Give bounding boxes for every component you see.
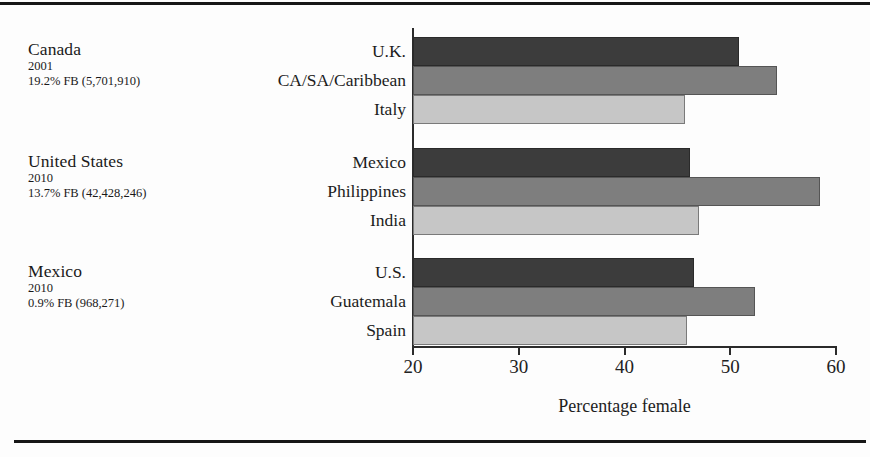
bar-category-label: Mexico bbox=[156, 152, 406, 172]
bar bbox=[413, 37, 739, 66]
bar bbox=[413, 287, 755, 316]
x-tick-mark bbox=[835, 346, 837, 355]
x-tick-mark bbox=[412, 346, 414, 355]
bar bbox=[413, 148, 690, 177]
bar bbox=[413, 95, 685, 124]
bar bbox=[413, 66, 777, 95]
bottom-rule bbox=[14, 440, 866, 443]
plot-area: 2030405060 bbox=[412, 28, 837, 348]
x-tick-label: 30 bbox=[497, 356, 541, 378]
bar-category-label: CA/SA/Caribbean bbox=[156, 70, 406, 90]
bar bbox=[413, 177, 820, 206]
figure-panel: Canada200119.2% FB (5,701,910)United Sta… bbox=[0, 0, 870, 457]
bar-category-label: U.S. bbox=[156, 262, 406, 282]
x-tick-mark bbox=[518, 346, 520, 355]
bar bbox=[413, 316, 687, 345]
bar-category-label: Philippines bbox=[156, 181, 406, 201]
x-tick-label: 40 bbox=[603, 356, 647, 378]
top-rule bbox=[0, 2, 870, 5]
x-tick-mark bbox=[624, 346, 626, 355]
bar bbox=[413, 258, 694, 287]
x-axis-title: Percentage female bbox=[412, 396, 837, 417]
x-tick-label: 20 bbox=[391, 356, 435, 378]
bar-category-label: Spain bbox=[156, 320, 406, 340]
bar bbox=[413, 206, 699, 235]
bar-category-label: Italy bbox=[156, 99, 406, 119]
category-label-column: U.K.CA/SA/CaribbeanItalyMexicoPhilippine… bbox=[150, 28, 406, 348]
x-tick-label: 50 bbox=[708, 356, 752, 378]
bar-category-label: Guatemala bbox=[156, 291, 406, 311]
x-tick-mark bbox=[729, 346, 731, 355]
x-tick-label: 60 bbox=[814, 356, 858, 378]
bar-category-label: U.K. bbox=[156, 41, 406, 61]
bar-category-label: India bbox=[156, 210, 406, 230]
